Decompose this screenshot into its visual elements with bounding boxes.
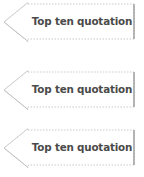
arrow-banner-1[interactable]: Top ten quotation bbox=[0, 1, 144, 42]
banner-label: Top ten quotation bbox=[33, 127, 131, 168]
arrow-banner-2[interactable]: Top ten quotation bbox=[0, 69, 144, 110]
arrow-banner-3[interactable]: Top ten quotation bbox=[0, 127, 144, 168]
banner-label: Top ten quotation bbox=[33, 1, 131, 42]
banner-label: Top ten quotation bbox=[33, 69, 131, 110]
